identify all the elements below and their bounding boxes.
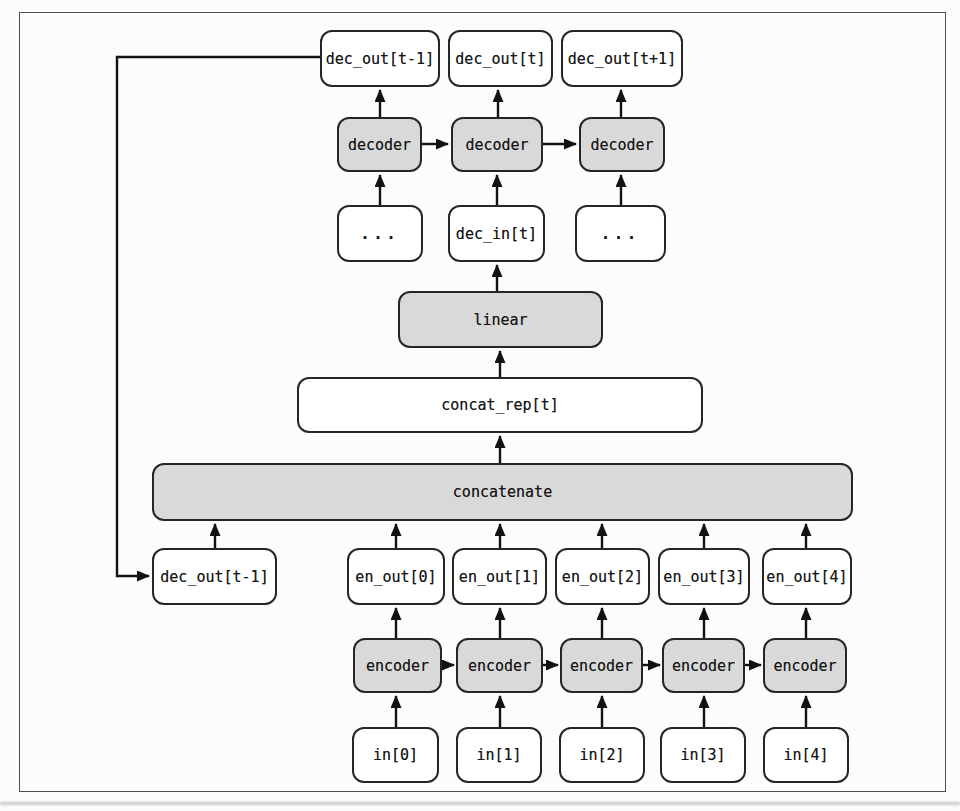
box-label: encoder (773, 657, 836, 675)
box-label: dec_out[t-1] (160, 568, 268, 586)
box-label: in[0] (373, 746, 418, 764)
box-decoder-2: decoder (579, 117, 665, 172)
box-en-out-0: en_out[0] (347, 548, 445, 605)
box-dec-out-prev-bottom: dec_out[t-1] (152, 548, 277, 605)
box-encoder-3: encoder (662, 638, 745, 693)
box-label: decoder (348, 136, 411, 154)
box-label: dec_out[t+1] (568, 50, 676, 68)
box-label: encoder (366, 657, 429, 675)
box-in-1: in[1] (456, 727, 542, 783)
box-in-3: in[3] (660, 727, 746, 783)
box-label: en_out[0] (355, 568, 436, 586)
box-in-0: in[0] (352, 727, 439, 783)
box-dots-left: ... (337, 205, 423, 262)
box-dec-out-prev-top: dec_out[t-1] (320, 30, 440, 87)
box-label: in[2] (579, 746, 624, 764)
box-label: in[3] (680, 746, 725, 764)
box-label: en_out[1] (459, 568, 540, 586)
scanned-figure-page: dec_out[t-1] dec_out[t] dec_out[t+1] dec… (0, 0, 960, 811)
box-dec-out-next: dec_out[t+1] (561, 30, 683, 87)
box-decoder-0: decoder (337, 117, 422, 172)
box-label: encoder (468, 657, 531, 675)
box-dots-right: ... (575, 205, 666, 262)
box-linear: linear (398, 291, 603, 348)
box-in-2: in[2] (559, 727, 645, 783)
box-label: in[4] (783, 746, 828, 764)
box-label: concat_rep[t] (441, 396, 558, 414)
box-label: decoder (590, 136, 653, 154)
box-label: encoder (570, 657, 633, 675)
box-en-out-2: en_out[2] (555, 548, 650, 605)
box-encoder-0: encoder (353, 638, 442, 693)
box-label: linear (473, 311, 527, 329)
ellipsis-label: ... (601, 225, 640, 243)
box-en-out-3: en_out[3] (658, 548, 750, 605)
box-label: en_out[3] (663, 568, 744, 586)
box-encoder-1: encoder (456, 638, 543, 693)
box-label: encoder (672, 657, 735, 675)
box-en-out-4: en_out[4] (762, 548, 852, 605)
box-label: dec_in[t] (456, 225, 537, 243)
box-in-4: in[4] (763, 727, 849, 783)
box-en-out-1: en_out[1] (452, 548, 547, 605)
box-label: concatenate (453, 483, 552, 501)
box-label: en_out[4] (766, 568, 847, 586)
box-label: decoder (465, 136, 528, 154)
box-concatenate: concatenate (152, 463, 853, 521)
box-decoder-1: decoder (451, 117, 543, 172)
box-encoder-2: encoder (560, 638, 643, 693)
box-dec-in-t: dec_in[t] (448, 205, 545, 262)
box-encoder-4: encoder (763, 638, 847, 693)
box-label: en_out[2] (562, 568, 643, 586)
box-label: dec_out[t] (455, 50, 545, 68)
box-concat-rep: concat_rep[t] (297, 377, 703, 433)
box-dec-out-t: dec_out[t] (448, 30, 553, 87)
box-label: in[1] (476, 746, 521, 764)
ellipsis-label: ... (360, 225, 399, 243)
box-label: dec_out[t-1] (326, 50, 434, 68)
